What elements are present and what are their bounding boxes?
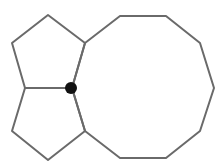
top-pentagon (12, 15, 85, 88)
decagon (72, 16, 214, 158)
polygon-diagram (0, 0, 224, 167)
bottom-pentagon (12, 88, 85, 160)
marked-vertex-dot (65, 82, 77, 94)
